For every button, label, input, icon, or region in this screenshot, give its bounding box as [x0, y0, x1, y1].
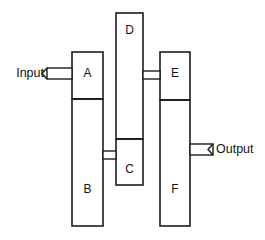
block-f-label: F: [171, 182, 178, 196]
block-diagram: A B D C E F: [0, 0, 265, 240]
output-port-rect: [190, 144, 213, 155]
block-c: C: [116, 139, 143, 185]
output-port: Output: [190, 142, 254, 156]
block-c-label: C: [125, 162, 134, 176]
block-d-label: D: [125, 23, 134, 37]
block-f-rect: [160, 100, 190, 226]
connector-b-c: [103, 151, 116, 159]
block-b-label: B: [83, 182, 91, 196]
input-label: Input: [16, 66, 44, 80]
block-diagram-canvas: A B D C E F: [0, 0, 265, 240]
block-a: A: [72, 52, 103, 99]
block-b: B: [72, 99, 103, 226]
block-a-label: A: [83, 66, 91, 80]
block-b-rect: [72, 99, 103, 226]
connector-d-e: [143, 71, 160, 79]
input-port-rect: [47, 68, 72, 79]
block-d: D: [116, 13, 143, 139]
block-e: E: [160, 52, 190, 100]
output-label: Output: [216, 142, 254, 156]
input-port: Input: [16, 66, 72, 80]
block-e-label: E: [171, 66, 179, 80]
block-f: F: [160, 100, 190, 226]
